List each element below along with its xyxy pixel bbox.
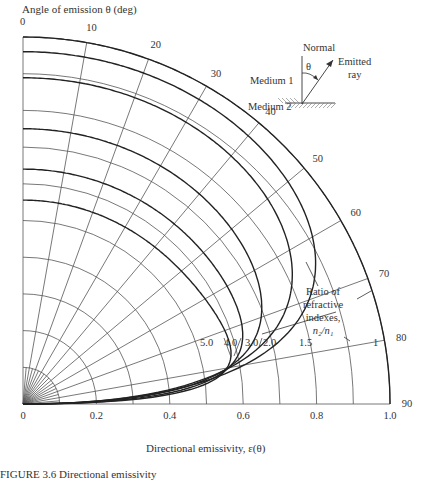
angle-gridline <box>23 123 259 404</box>
radial-tick-label: 0.8 <box>310 410 323 421</box>
inset-medium1-label: Medium 1 <box>250 75 293 86</box>
curve-label-1-5: 1.5 <box>299 337 312 348</box>
theta-tick-label: 90 <box>402 398 413 409</box>
radial-tick-label: 0.6 <box>237 410 250 421</box>
radial-tick-label: 0.4 <box>163 410 177 421</box>
theta-tick-label: 0 <box>20 16 25 27</box>
svg-text:indexes,: indexes, <box>306 312 341 323</box>
theta-tick-label: 80 <box>396 332 407 343</box>
radial-axis-label: Directional emissivity, ε(θ) <box>146 442 266 455</box>
theta-tick-label: 60 <box>351 207 362 218</box>
radial-tick-label: 1.0 <box>383 410 396 421</box>
angle-gridline <box>23 168 304 404</box>
curve-labels: 5.0 4.0 3.0 2.0 1.5 1 <box>200 337 378 357</box>
radial-tick-label: 0.2 <box>90 410 103 421</box>
angle-gridline <box>23 43 87 404</box>
refractive-index-annotation: Ratio of refractive indexes, n₂/n₁ <box>262 262 371 341</box>
theta-tick-label: 30 <box>211 68 222 79</box>
inset-emitted-label: Emitted <box>338 56 372 67</box>
curve-label-3: 3.0 <box>245 337 258 348</box>
emission-inset-diagram: Normal θ Emitted ray Medium 1 Medium 2 <box>248 42 372 112</box>
curve-label-1: 1 <box>373 337 378 348</box>
theta-axis-label: Angle of emission θ (deg) <box>22 3 137 16</box>
inset-medium2-label: Medium 2 <box>248 101 291 112</box>
emissivity-curve-3-0 <box>23 129 262 404</box>
curve-label-2: 2.0 <box>263 337 276 348</box>
svg-text:ray: ray <box>348 69 362 80</box>
theta-tick-label: 70 <box>379 268 390 279</box>
svg-text:refractive: refractive <box>303 299 344 310</box>
angle-gridline <box>23 340 384 404</box>
theta-tick-label: 50 <box>312 153 323 164</box>
inset-normal-label: Normal <box>303 42 335 53</box>
theta-tick-label: 20 <box>151 39 162 50</box>
curve-label-5: 5.0 <box>200 337 213 348</box>
angle-gridline <box>23 86 207 404</box>
angle-gridline <box>23 221 341 405</box>
svg-text:Ratio of: Ratio of <box>306 286 341 297</box>
figure-caption: FIGURE 3.6 Directional emissivity <box>0 468 156 480</box>
theta-tick-label: 10 <box>86 22 97 33</box>
polar-grid <box>23 37 390 404</box>
svg-text:n₂/n₁: n₂/n₁ <box>313 325 334 336</box>
inset-theta-label: θ <box>306 61 311 72</box>
radial-tick-label: 0 <box>20 410 25 421</box>
